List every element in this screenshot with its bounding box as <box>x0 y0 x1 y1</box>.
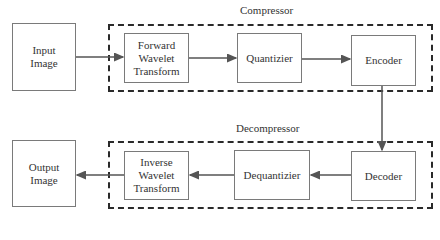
inverse-wavelet-node: Inverse Wavelet Transform <box>124 151 189 200</box>
encoder-label: Encoder <box>365 54 402 67</box>
input-image-node: Input Image <box>12 23 76 91</box>
input-image-label: Input Image <box>24 44 64 70</box>
quantizier-node: Quantizier <box>237 33 302 83</box>
forward-wavelet-node: Forward Wavelet Transform <box>124 33 189 83</box>
output-image-node: Output Image <box>12 140 76 207</box>
dequantizier-label: Dequantizier <box>244 169 301 182</box>
quantizier-label: Quantizier <box>246 52 292 65</box>
encoder-node: Encoder <box>351 35 416 86</box>
dequantizier-node: Dequantizier <box>234 150 310 200</box>
decoder-node: Decoder <box>351 151 416 201</box>
inverse-wavelet-label: Inverse Wavelet Transform <box>128 156 186 195</box>
decoder-label: Decoder <box>365 170 402 183</box>
output-image-label: Output Image <box>24 161 64 187</box>
forward-wavelet-label: Forward Wavelet Transform <box>128 39 186 78</box>
